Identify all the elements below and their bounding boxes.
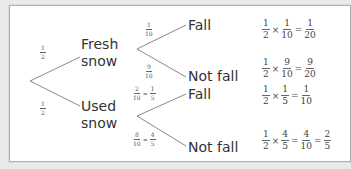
label-used-snow: Used snow [81, 98, 117, 132]
branch-used-snow [30, 81, 80, 106]
result-fresh-notfall: 12 × 910 = 920 [262, 58, 316, 79]
prob-fresh-snow: 12 [40, 45, 46, 60]
label-fresh-fall: Fall [188, 17, 211, 34]
label-used-notfall: Not fall [188, 139, 238, 156]
prob-fresh-fall: 110 [145, 22, 153, 37]
prob-used-fall: 210 = 15 [133, 86, 156, 101]
prob-fresh-notfall: 910 [145, 64, 153, 79]
prob-used-snow: 12 [40, 101, 46, 116]
result-used-notfall: 12 × 45 = 410 = 25 [262, 130, 331, 151]
result-fresh-fall: 12 × 110 = 120 [262, 19, 316, 40]
prob-used-notfall: 810 = 45 [133, 132, 156, 147]
label-fresh-notfall: Not fall [188, 68, 238, 85]
branch-fresh-snow [30, 57, 80, 81]
label-used-fall: Fall [188, 86, 211, 103]
result-used-fall: 12 × 15 = 110 [262, 85, 312, 106]
label-fresh-snow: Fresh snow [81, 36, 118, 70]
